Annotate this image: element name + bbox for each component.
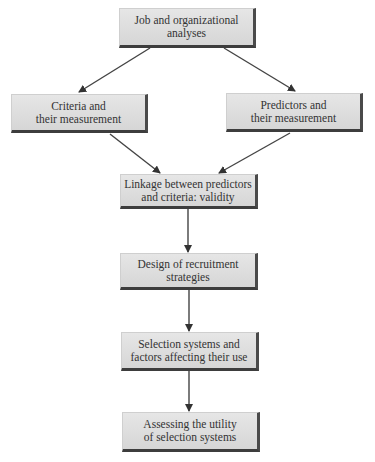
arrow-criteria-to-linkage <box>110 134 160 173</box>
node-utility-assessment: Assessing the utility of selection syste… <box>122 412 260 452</box>
node-criteria: Criteria and their measurement <box>11 94 148 133</box>
node-recruitment-strategies: Design of recruitment strategies <box>120 253 258 290</box>
arrow-predictors-to-linkage <box>219 133 290 173</box>
arrow-job-to-predictors <box>224 48 295 91</box>
connector-arrows <box>0 0 375 462</box>
node-label: Design of recruitment strategies <box>138 258 239 284</box>
node-label: Criteria and their measurement <box>36 100 121 126</box>
arrow-job-to-criteria <box>79 48 150 92</box>
node-label: Job and organizational analyses <box>135 14 239 40</box>
node-label: Predictors and their measurement <box>251 99 336 125</box>
node-linkage-validity: Linkage between predictors and criteria:… <box>120 174 258 209</box>
node-predictors: Predictors and their measurement <box>226 93 363 132</box>
node-selection-systems: Selection systems and factors affecting … <box>121 332 259 371</box>
node-job-analyses: Job and organizational analyses <box>119 8 256 48</box>
node-label: Linkage between predictors and criteria:… <box>124 178 252 204</box>
node-label: Selection systems and factors affecting … <box>131 338 248 364</box>
node-label: Assessing the utility of selection syste… <box>143 418 236 444</box>
